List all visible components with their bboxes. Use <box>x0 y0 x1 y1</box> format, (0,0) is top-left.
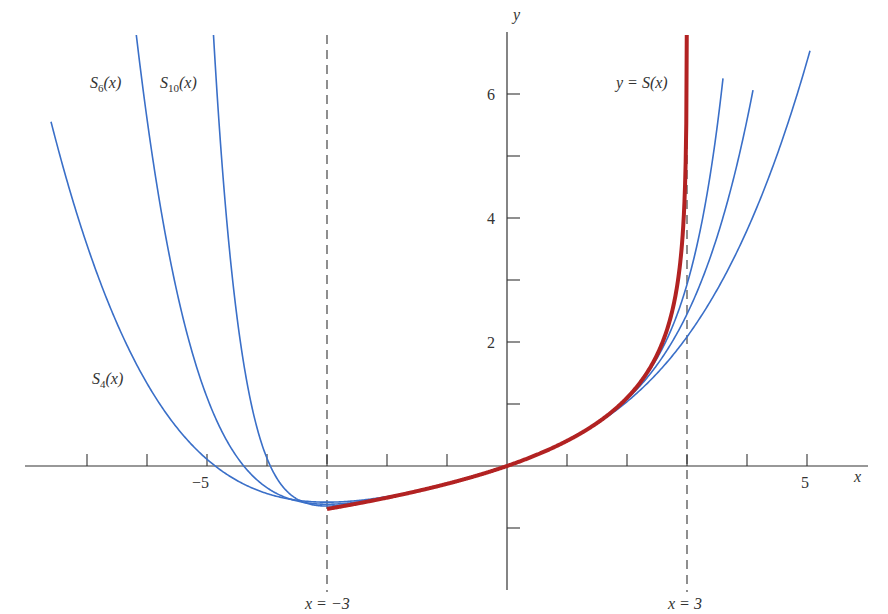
s6-label: S6(x) <box>90 74 121 94</box>
tick-label-5: 5 <box>801 474 809 491</box>
tick-label-4: 4 <box>487 210 495 227</box>
tick-label-m5: −5 <box>192 474 209 491</box>
curve-s4-x- <box>51 51 810 502</box>
s4-label: S4(x) <box>92 370 123 390</box>
asymptote-right-label: x = 3 <box>667 595 702 612</box>
s-curve-label: y = S(x) <box>614 74 668 92</box>
s10-label: S10(x) <box>160 74 197 94</box>
axis-ticks <box>87 94 807 528</box>
tick-label-2: 2 <box>487 334 495 351</box>
asymptote-left-label: x = −3 <box>304 595 350 612</box>
y-axis-label: y <box>511 6 521 24</box>
series-plot: y x −5 5 2 4 6 y = S(x) x = −3 x = 3 S6(… <box>0 0 888 614</box>
tick-label-6: 6 <box>487 86 495 103</box>
x-axis-label: x <box>853 468 861 485</box>
